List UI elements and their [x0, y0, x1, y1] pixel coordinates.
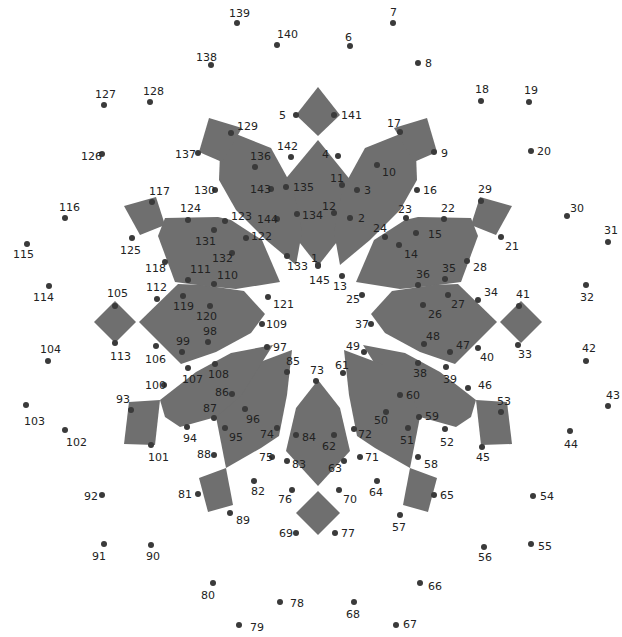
dot-marker[interactable]	[443, 364, 449, 370]
dot-138[interactable]: 138	[196, 51, 217, 68]
dot-marker[interactable]	[210, 580, 216, 586]
dot-113[interactable]: 113	[110, 340, 131, 363]
dot-marker[interactable]	[180, 293, 186, 299]
dot-marker[interactable]	[420, 302, 426, 308]
dot-30[interactable]: 30	[564, 202, 584, 219]
dot-marker[interactable]	[154, 296, 160, 302]
dot-marker[interactable]	[148, 542, 154, 548]
dot-126[interactable]: 126	[81, 150, 105, 163]
dot-marker[interactable]	[277, 599, 283, 605]
dot-72[interactable]: 72	[351, 426, 372, 441]
dot-91[interactable]: 91	[92, 541, 107, 563]
dot-marker[interactable]	[583, 358, 589, 364]
dot-marker[interactable]	[336, 487, 342, 493]
dot-13[interactable]: 13	[333, 273, 347, 293]
dot-marker[interactable]	[413, 230, 419, 236]
dot-139[interactable]: 139	[229, 7, 250, 26]
dot-marker[interactable]	[415, 360, 421, 366]
dot-125[interactable]: 125	[120, 235, 141, 257]
dot-marker[interactable]	[62, 427, 68, 433]
dot-64[interactable]: 64	[369, 478, 383, 499]
dot-marker[interactable]	[478, 198, 484, 204]
dot-marker[interactable]	[274, 42, 280, 48]
dot-marker[interactable]	[227, 510, 233, 516]
dot-marker[interactable]	[284, 369, 290, 375]
dot-marker[interactable]	[153, 343, 159, 349]
dot-marker[interactable]	[251, 478, 257, 484]
dot-7[interactable]: 7	[390, 6, 397, 26]
dot-marker[interactable]	[393, 622, 399, 628]
dot-5[interactable]: 5	[279, 109, 299, 122]
dot-marker[interactable]	[112, 303, 118, 309]
dot-marker[interactable]	[481, 544, 487, 550]
dot-marker[interactable]	[331, 112, 337, 118]
dot-marker[interactable]	[185, 277, 191, 283]
dot-marker[interactable]	[530, 493, 536, 499]
dot-140[interactable]: 140	[274, 28, 298, 48]
dot-46[interactable]: 46	[465, 379, 492, 392]
dot-43[interactable]: 43	[605, 389, 620, 409]
dot-81[interactable]: 81	[178, 488, 201, 501]
dot-marker[interactable]	[347, 215, 353, 221]
dot-marker[interactable]	[259, 321, 265, 327]
dot-marker[interactable]	[415, 282, 421, 288]
dot-80[interactable]: 80	[201, 580, 216, 602]
dot-45[interactable]: 45	[476, 444, 490, 464]
dot-marker[interactable]	[390, 20, 396, 26]
dot-marker[interactable]	[339, 273, 345, 279]
dot-100[interactable]: 100	[145, 379, 167, 392]
dot-marker[interactable]	[415, 60, 421, 66]
dot-marker[interactable]	[415, 454, 421, 460]
dot-69[interactable]: 69	[279, 527, 299, 540]
dot-marker[interactable]	[284, 458, 290, 464]
dot-marker[interactable]	[148, 442, 154, 448]
dot-marker[interactable]	[45, 358, 51, 364]
dot-42[interactable]: 42	[582, 342, 596, 364]
dot-marker[interactable]	[332, 530, 338, 536]
dot-marker[interactable]	[24, 241, 30, 247]
dot-18[interactable]: 18	[475, 83, 489, 104]
dot-33[interactable]: 33	[515, 342, 532, 361]
dot-marker[interactable]	[293, 112, 299, 118]
dot-20[interactable]: 20	[528, 145, 551, 158]
dot-marker[interactable]	[478, 98, 484, 104]
dot-6[interactable]: 6	[345, 31, 353, 49]
dot-70[interactable]: 70	[336, 487, 357, 506]
dot-marker[interactable]	[416, 414, 422, 420]
dot-marker[interactable]	[265, 294, 271, 300]
dot-marker[interactable]	[101, 102, 107, 108]
dot-marker[interactable]	[335, 153, 341, 159]
dot-marker[interactable]	[264, 344, 270, 350]
dot-marker[interactable]	[184, 424, 190, 430]
dot-marker[interactable]	[354, 187, 360, 193]
dot-88[interactable]: 88	[197, 448, 217, 461]
dot-marker[interactable]	[205, 339, 211, 345]
dot-marker[interactable]	[397, 512, 403, 518]
dot-marker[interactable]	[447, 349, 453, 355]
dot-101[interactable]: 101	[148, 442, 169, 464]
dot-78[interactable]: 78	[277, 597, 304, 610]
dot-71[interactable]: 71	[357, 451, 379, 464]
dot-75[interactable]: 75	[259, 451, 275, 464]
dot-marker[interactable]	[331, 432, 337, 438]
dot-128[interactable]: 128	[143, 85, 164, 105]
dot-137[interactable]: 137	[175, 148, 201, 161]
dot-marker[interactable]	[129, 235, 135, 241]
dot-89[interactable]: 89	[227, 510, 250, 527]
dot-123[interactable]: 123	[222, 210, 252, 224]
dot-marker[interactable]	[431, 149, 437, 155]
dot-marker[interactable]	[252, 164, 258, 170]
dot-marker[interactable]	[128, 407, 134, 413]
dot-106[interactable]: 106	[145, 343, 166, 366]
dot-marker[interactable]	[212, 361, 218, 367]
dot-77[interactable]: 77	[332, 527, 355, 540]
dot-marker[interactable]	[442, 276, 448, 282]
dot-8[interactable]: 8	[415, 57, 432, 70]
dot-53[interactable]: 53	[497, 395, 511, 415]
dot-marker[interactable]	[211, 415, 217, 421]
dot-28[interactable]: 28	[464, 258, 487, 274]
dot-marker[interactable]	[441, 216, 447, 222]
dot-marker[interactable]	[236, 622, 242, 628]
dot-82[interactable]: 82	[251, 478, 265, 498]
dot-marker[interactable]	[149, 199, 155, 205]
